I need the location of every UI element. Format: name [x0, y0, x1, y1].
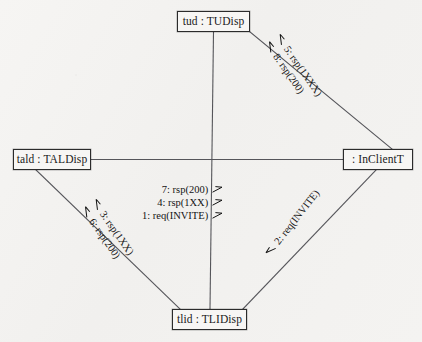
lifeline-inclientt-label: : InClientT [352, 154, 404, 166]
half-arrow-right-icon [212, 198, 223, 207]
lifeline-inclientt[interactable]: : InClientT [343, 149, 413, 170]
half-arrow-right-icon [212, 211, 223, 220]
lifeline-tald-label: tald : TALDisp [17, 154, 88, 166]
lifeline-tlid[interactable]: tlid : TLIDisp [172, 309, 247, 330]
message-1[interactable]: 1: req(INVITE) [142, 209, 223, 222]
lifeline-tud-label: tud : TUDisp [183, 16, 245, 28]
message-1-label: 1: req(INVITE) [142, 209, 208, 222]
lifeline-tald[interactable]: tald : TALDisp [13, 149, 91, 170]
link-line-tud-tlid [210, 32, 214, 309]
message-4-label: 4: rsp(1XX) [157, 196, 208, 209]
message-7[interactable]: 7: rsp(200) [142, 183, 223, 196]
lifeline-tlid-label: tlid : TLIDisp [177, 314, 242, 326]
message-4[interactable]: 4: rsp(1XX) [142, 196, 223, 209]
message-group-center: 7: rsp(200) 4: rsp(1XX) 1: req(INVITE) [142, 183, 223, 222]
lifeline-tud[interactable]: tud : TUDisp [177, 11, 250, 32]
half-arrow-right-icon [212, 185, 223, 194]
link-lines [0, 0, 422, 342]
half-arrow-left-icon [79, 205, 93, 219]
half-arrow-left-icon [263, 40, 277, 54]
communication-diagram-canvas: tud : TUDisp tald : TALDisp : InClientT … [0, 0, 422, 342]
message-7-label: 7: rsp(200) [162, 183, 208, 196]
